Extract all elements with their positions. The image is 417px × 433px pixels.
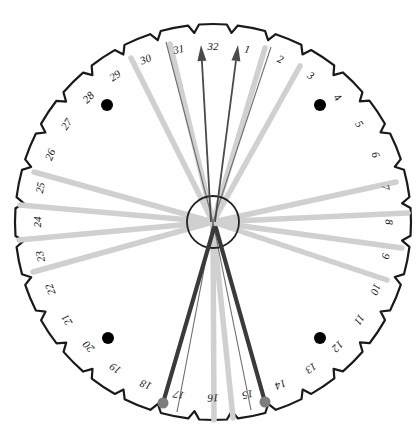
tick-label-31: 31 [171, 42, 185, 56]
dot-top-left [101, 99, 113, 111]
bold-ray-19-endpoint [260, 397, 271, 408]
circular-wheel-svg: 1234567891011121314151617181920212223242… [0, 0, 417, 433]
tick-label-32: 32 [206, 40, 219, 52]
tick-label-16: 16 [207, 392, 219, 404]
wheel-diagram-canvas: 1234567891011121314151617181920212223242… [0, 0, 417, 433]
dot-bottom-right [314, 332, 326, 344]
dot-top-right [314, 99, 326, 111]
tick-label-8: 8 [383, 219, 395, 225]
tick-label-24: 24 [31, 216, 43, 228]
dot-bottom-left [102, 332, 114, 344]
bold-ray-22-endpoint [158, 398, 169, 409]
